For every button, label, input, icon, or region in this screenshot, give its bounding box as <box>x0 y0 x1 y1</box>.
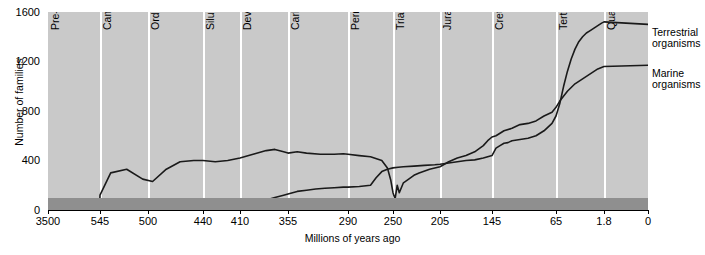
x-tick-mark <box>288 210 289 214</box>
x-tick-mark <box>100 210 101 214</box>
y-tick-label: 0 <box>6 205 40 216</box>
y-tick-label: 800 <box>6 106 40 117</box>
series-annotation-terrestrial: Terrestrial organisms <box>652 27 700 49</box>
x-tick-mark <box>348 210 349 214</box>
y-tick-label: 400 <box>6 155 40 166</box>
x-tick-label: 355 <box>268 215 308 227</box>
plot-area: Pre-cambrianCambrianOrdovicianSilurianDe… <box>48 12 648 210</box>
x-tick-mark <box>48 210 49 214</box>
y-tick-label: 1600 <box>6 7 40 18</box>
x-tick-label: 410 <box>220 215 260 227</box>
series-annotation-marine-line2: organisms <box>652 79 700 90</box>
x-tick-mark <box>492 210 493 214</box>
x-tick-label: 545 <box>80 215 120 227</box>
x-tick-label: 500 <box>128 215 168 227</box>
series-annotation-marine: Marine organisms <box>652 68 700 90</box>
x-tick-mark <box>393 210 394 214</box>
x-tick-label: 65 <box>536 215 576 227</box>
x-tick-label: 205 <box>420 215 460 227</box>
x-tick-label: 3500 <box>28 215 68 227</box>
x-tick-label: 145 <box>472 215 512 227</box>
series-line <box>48 65 648 210</box>
x-tick-mark <box>604 210 605 214</box>
baseline-band <box>48 198 648 210</box>
y-tick-label: 1200 <box>6 56 40 67</box>
x-tick-mark <box>440 210 441 214</box>
series-line <box>189 22 648 210</box>
x-tick-label: 440 <box>183 215 223 227</box>
x-tick-label: 0 <box>628 215 668 227</box>
x-tick-mark <box>148 210 149 214</box>
x-tick-mark <box>648 210 649 214</box>
x-tick-mark <box>240 210 241 214</box>
series-annotation-terrestrial-line2: organisms <box>652 38 700 49</box>
x-tick-label: 290 <box>328 215 368 227</box>
x-tick-label: 250 <box>373 215 413 227</box>
x-tick-mark <box>203 210 204 214</box>
x-tick-label: 1.8 <box>584 215 624 227</box>
x-tick-mark <box>556 210 557 214</box>
x-axis-label: Millions of years ago <box>0 232 705 244</box>
chart-root: Number of families 040080012001600 Pre-c… <box>0 0 705 255</box>
series-lines <box>48 12 648 210</box>
